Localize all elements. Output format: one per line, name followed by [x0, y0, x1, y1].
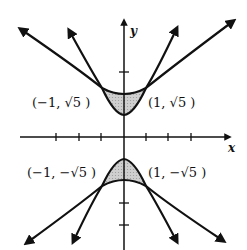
upper-wide-curve: [22, 22, 232, 94]
y-axis-label: y: [130, 24, 137, 38]
x-axis-label: x: [228, 141, 235, 155]
lower-wide-curve: [28, 180, 222, 242]
point-label-neg1-negsqrt5: (−1, −√5 ): [27, 166, 96, 179]
point-label-1-sqrt5: (1, √5 ): [148, 96, 195, 109]
hyperbola-graph: [0, 0, 247, 250]
point-label-neg1-sqrt5: (−1, √5 ): [32, 96, 90, 109]
point-label-1-negsqrt5: (1, −√5 ): [148, 166, 206, 179]
